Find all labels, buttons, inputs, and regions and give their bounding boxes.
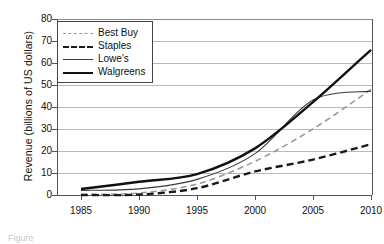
x-tick-1990: 1990 <box>119 206 159 216</box>
figure-caption: Figure <box>8 233 34 243</box>
legend-item-best-buy: Best Buy <box>63 26 148 39</box>
legend-item-staples: Staples <box>63 39 148 52</box>
legend-item-lowes: Lowe's <box>63 52 148 65</box>
legend-label-lowes: Lowe's <box>98 53 129 65</box>
legend-swatch-best-buy <box>63 27 93 39</box>
line-chart-figure: Revenue (billions of US dollars) 80 70 6… <box>0 0 384 244</box>
chart-legend: Best Buy Staples Lowe's Walgreens <box>57 21 153 83</box>
legend-swatch-staples <box>63 40 93 52</box>
x-tick-2010: 2010 <box>351 206 384 216</box>
x-tick-1985: 1985 <box>61 206 101 216</box>
legend-swatch-lowes <box>63 53 93 65</box>
legend-swatch-walgreens <box>63 66 93 78</box>
legend-label-walgreens: Walgreens <box>98 66 145 78</box>
legend-label-best-buy: Best Buy <box>98 27 138 39</box>
legend-label-staples: Staples <box>98 40 131 52</box>
legend-item-walgreens: Walgreens <box>63 65 148 78</box>
x-tick-2000: 2000 <box>235 206 275 216</box>
x-tick-2005: 2005 <box>293 206 333 216</box>
x-tick-1995: 1995 <box>177 206 217 216</box>
